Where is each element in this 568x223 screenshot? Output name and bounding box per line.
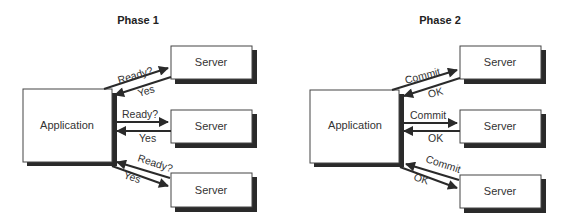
response-label: Yes [122,168,142,185]
server-label: Server [484,120,517,132]
server-label: Server [484,56,517,68]
application-label: Application [328,119,382,131]
application-label: Application [40,119,94,131]
phase-2-title: Phase 2 [419,14,461,26]
response-label: OK [426,84,444,100]
two-phase-commit-diagram: Phase 1 Application Server Server Server [0,0,568,223]
server-label: Server [195,56,228,68]
phase-2-application-box: Application [310,90,404,167]
response-label: Yes [139,132,156,144]
request-label: Ready? [136,151,174,174]
phase-1-server-3: Server [171,173,257,212]
phase-1-application-box: Application [23,89,117,166]
phase-1-title: Phase 1 [117,14,159,26]
phase-2-server-1: Server [460,46,546,84]
server-label: Server [195,184,228,196]
request-label: Commit [403,65,441,86]
response-label: OK [412,170,430,186]
phase-1-server-2: Server [171,110,257,148]
phase-2-server-2: Server [460,110,546,148]
phase-1-group: Phase 1 Application Server Server Server [23,14,257,212]
server-label: Server [484,185,517,197]
response-label: OK [428,132,443,144]
request-label: Ready? [122,108,158,120]
phase-1-server-1: Server [171,46,257,84]
phase-2-server-3: Server [460,175,546,213]
phase-2-group: Phase 2 Application Server Server Server [310,14,546,213]
request-label: Commit [410,109,446,121]
server-label: Server [195,120,228,132]
response-label: Yes [136,82,156,98]
